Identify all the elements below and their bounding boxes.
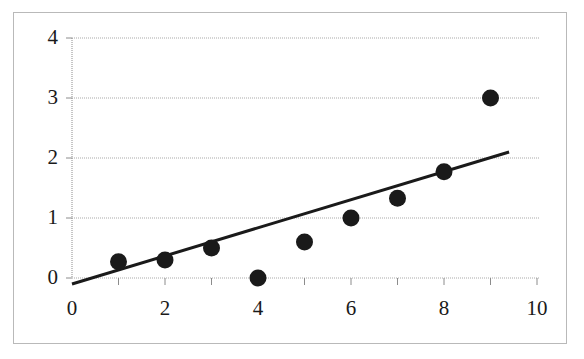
data-point — [203, 240, 220, 257]
x-tick-label-2: 2 — [145, 298, 185, 319]
x-tick-label-4: 4 — [238, 298, 278, 319]
data-point — [110, 253, 127, 270]
x-tick-label-0: 0 — [52, 298, 92, 319]
chart-screenshot: 01234 0246810 — [0, 0, 584, 359]
data-point — [482, 90, 499, 107]
x-axis-ticks — [119, 278, 538, 285]
y-tick-label-4: 4 — [32, 27, 58, 48]
data-points — [110, 90, 499, 287]
data-point — [296, 234, 313, 251]
data-point — [250, 270, 267, 287]
x-tick-label-10: 10 — [517, 298, 557, 319]
x-tick-label-8: 8 — [424, 298, 464, 319]
data-point — [157, 252, 174, 269]
y-tick-label-1: 1 — [32, 207, 58, 228]
y-tick-label-2: 2 — [32, 147, 58, 168]
data-point — [389, 190, 406, 207]
data-point — [343, 210, 360, 227]
y-tick-label-0: 0 — [32, 267, 58, 288]
y-tick-label-3: 3 — [32, 87, 58, 108]
data-point — [436, 163, 453, 180]
y-axis-ticks — [66, 38, 72, 278]
x-tick-label-6: 6 — [331, 298, 371, 319]
